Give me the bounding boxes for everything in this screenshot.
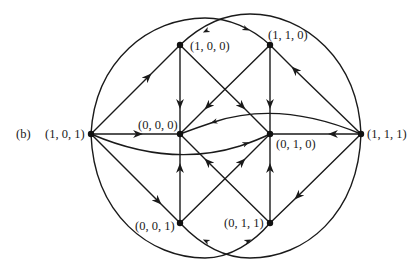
node-000 <box>177 131 183 137</box>
edge-101-001 <box>91 134 180 223</box>
labels: (b) (1, 0, 1) (1, 0, 0) (1, 1, 0) (0, 0,… <box>16 28 407 233</box>
edge-101-010-curved-end <box>240 134 270 146</box>
label-101: (1, 0, 1) <box>45 127 85 141</box>
label-100: (1, 0, 0) <box>190 39 230 53</box>
node-011 <box>267 220 273 226</box>
edge-111-110 <box>270 45 361 134</box>
label-001: (0, 0, 1) <box>135 219 175 233</box>
label-110: (1, 1, 0) <box>268 28 308 42</box>
node-110 <box>267 42 273 48</box>
label-000: (0, 0, 0) <box>138 118 178 132</box>
node-111 <box>358 131 364 137</box>
label-011: (0, 1, 1) <box>224 216 264 230</box>
node-001 <box>177 220 183 226</box>
edge-101-010-curved <box>91 134 240 155</box>
state-transition-graph: (b) (1, 0, 1) (1, 0, 0) (1, 1, 0) (0, 0,… <box>0 0 418 273</box>
node-010 <box>267 131 273 137</box>
label-010: (0, 1, 0) <box>276 137 316 151</box>
figure-label: (b) <box>16 127 31 141</box>
node-100 <box>177 42 183 48</box>
node-101 <box>88 131 94 137</box>
label-111: (1, 1, 1) <box>367 127 407 141</box>
